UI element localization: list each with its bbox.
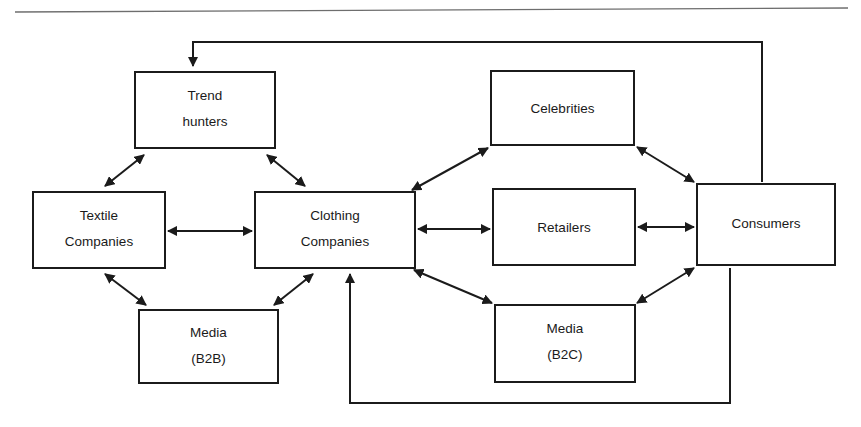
node-retailers[interactable]: Retailers [493,189,635,265]
node-trend-hunters-label-line1: Trend [188,88,223,103]
node-consumers-label: Consumers [731,216,800,231]
diagram-figure: Trend hunters Celebrities Textile Compan… [0,0,861,427]
node-media-b2c-label-line2: (B2C) [547,347,582,362]
node-textile-companies-label-line1: Textile [80,208,118,223]
node-clothing-companies-label-line1: Clothing [310,208,360,223]
edge-textile-companies-media-b2b [105,274,146,305]
node-textile-companies-label-line2: Companies [65,234,134,249]
node-media-b2c-box[interactable] [495,305,635,382]
node-consumers[interactable]: Consumers [697,184,835,265]
edge-trend-hunters-clothing-companies [267,155,305,186]
node-media-b2b-label-line1: Media [190,325,227,340]
node-clothing-companies-box[interactable] [255,192,415,268]
node-media-b2c-label-line1: Media [547,321,584,336]
node-trend-hunters-label-line2: hunters [182,114,227,129]
node-media-b2b-box[interactable] [139,310,278,383]
edge-consumers-trend-hunters-feedback [193,42,762,182]
node-clothing-companies[interactable]: Clothing Companies [255,192,415,268]
node-celebrities-label: Celebrities [531,101,595,116]
node-media-b2c[interactable]: Media (B2C) [495,305,635,382]
edge-trend-hunters-textile-companies [105,155,144,186]
edge-media-b2b-clothing-companies [274,274,313,305]
node-retailers-label: Retailers [537,220,591,235]
node-celebrities[interactable]: Celebrities [491,71,634,145]
node-trend-hunters-box[interactable] [135,72,275,148]
diagram-canvas: Trend hunters Celebrities Textile Compan… [0,0,861,427]
node-textile-companies-box[interactable] [33,192,165,268]
node-media-b2b[interactable]: Media (B2B) [139,310,278,383]
node-layer: Trend hunters Celebrities Textile Compan… [33,71,835,383]
edge-clothing-companies-media-b2c [414,270,492,303]
node-media-b2b-label-line2: (B2B) [191,351,226,366]
page-rule-divider [15,8,848,12]
node-clothing-companies-label-line2: Companies [301,234,370,249]
node-textile-companies[interactable]: Textile Companies [33,192,165,268]
edge-media-b2c-consumers [637,268,694,303]
node-trend-hunters[interactable]: Trend hunters [135,72,275,148]
edge-clothing-companies-celebrities [412,148,488,190]
edge-celebrities-consumers [637,147,694,182]
